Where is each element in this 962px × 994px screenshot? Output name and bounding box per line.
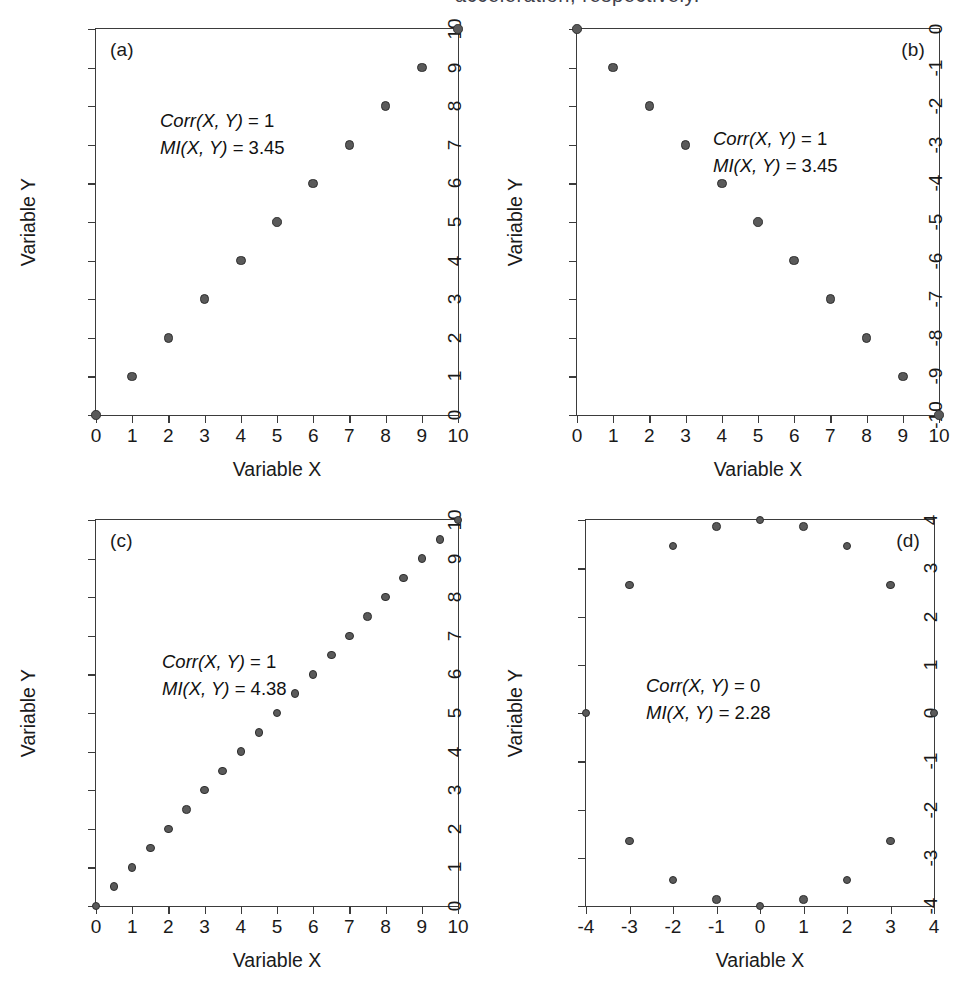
y-tick [88,145,96,146]
data-point [886,581,895,590]
y-tick [88,790,96,791]
x-tick-label: 1 [127,426,138,445]
x-tick [349,415,350,423]
x-tick [205,906,206,914]
x-tick [132,906,133,914]
x-tick [386,906,387,914]
panel-a-letter: (a) [110,39,134,61]
x-tick-label: -4 [578,917,595,936]
x-tick-label: 6 [308,426,319,445]
y-tick [88,597,96,598]
x-tick-label: 7 [344,426,355,445]
data-point [127,372,137,382]
x-tick-label: 2 [163,426,174,445]
data-point [345,632,354,641]
y-tick [578,906,586,907]
y-tick [88,713,96,714]
y-tick [88,752,96,753]
panel-b-corr-label: Corr(X, Y) [713,128,796,149]
y-tick-label: 1 [921,659,940,670]
x-tick [205,415,206,423]
panel-b-mi-eq: = [781,155,802,176]
data-point [645,101,655,111]
y-tick-label: -3 [921,849,940,866]
panel-b-corr-eq: = [796,128,817,149]
y-tick-label: 3 [445,785,464,796]
x-tick [758,415,759,423]
data-point [681,140,691,150]
x-tick-label: 4 [236,917,247,936]
data-point [345,140,355,150]
data-point [417,63,427,73]
y-tick-label: -7 [926,291,945,308]
x-tick [613,415,614,423]
y-tick-label: 1 [445,371,464,382]
panel-d-letter: (d) [896,530,920,552]
y-tick-label: -1 [921,753,940,770]
x-tick-label: 2 [842,917,853,936]
panel-d-corr-label: Corr(X, Y) [646,675,729,696]
panel-b-corr-value: 1 [817,128,827,149]
y-tick [88,183,96,184]
y-tick-label: -4 [921,898,940,915]
data-point [582,709,591,718]
data-point [898,372,908,382]
data-point [625,581,634,590]
x-tick-label: 1 [608,426,619,445]
y-tick [569,299,577,300]
data-point [753,217,763,227]
y-tick-label: 2 [921,611,940,622]
panel-d-mi-eq: = [714,702,735,723]
x-tick [867,415,868,423]
data-point [843,876,852,885]
panel-c-corr-label: Corr(X, Y) [162,651,245,672]
y-tick [88,636,96,637]
x-tick-label: 4 [717,426,728,445]
panel-b: Variable Y (b) Corr(X, Y) = 1 MI(X, Y) =… [481,6,962,497]
x-tick-label: 0 [755,917,766,936]
y-tick [578,761,586,762]
data-point [273,709,282,718]
panel-d-corr-value: 0 [750,675,760,696]
panel-d: Variable Y (d) Corr(X, Y) = 0 MI(X, Y) =… [481,497,962,988]
data-point [862,333,872,343]
x-tick-label: 2 [163,917,174,936]
y-tick [569,415,577,416]
y-tick-label: -8 [926,329,945,346]
x-tick [934,906,935,914]
panel-c-mi-eq: = [230,678,251,699]
y-tick [569,376,577,377]
x-tick [458,415,459,423]
panel-c-yaxis-title: Variable Y [16,519,40,907]
data-point [799,895,808,904]
x-tick-label: 5 [272,426,283,445]
y-tick-label: 5 [445,708,464,719]
y-tick [88,106,96,107]
x-tick-label: 9 [417,426,428,445]
y-tick [569,222,577,223]
y-tick-label: -5 [926,214,945,231]
y-tick [88,299,96,300]
x-tick-label: 8 [380,917,391,936]
panel-b-annotation: Corr(X, Y) = 1 MI(X, Y) = 3.45 [713,125,838,180]
data-point [669,542,678,551]
y-tick [88,829,96,830]
y-tick [578,665,586,666]
panel-c-letter: (c) [110,530,133,552]
y-tick-label: 6 [445,669,464,680]
panel-c-mi-label: MI(X, Y) [162,678,230,699]
x-tick [313,906,314,914]
data-point [381,593,390,602]
data-point [399,574,408,583]
data-point [826,294,836,304]
panel-c-mi-value: 4.38 [251,678,287,699]
y-tick-label: -2 [921,801,940,818]
x-tick-label: 5 [272,917,283,936]
x-tick [717,906,718,914]
y-tick [88,29,96,30]
data-point [272,217,282,227]
x-tick-label: 1 [798,917,809,936]
y-tick [569,145,577,146]
data-point [712,895,721,904]
y-tick-label: -2 [926,98,945,115]
